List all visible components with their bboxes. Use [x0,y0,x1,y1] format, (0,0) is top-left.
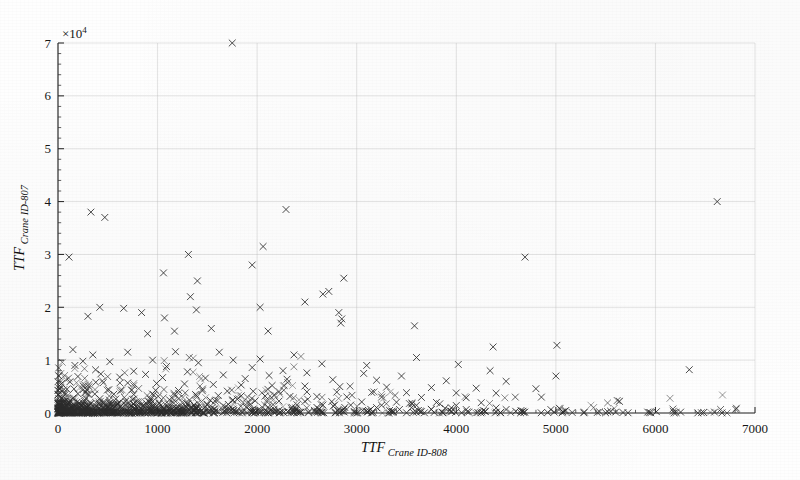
y-axis-exponent-label: ×104 [62,25,87,41]
x-axis-title: TTF Crane ID-808 [361,440,448,458]
plot-canvas: 0100020003000400050006000700001234567 ×1… [0,0,800,480]
y-tick-label: 6 [45,88,52,103]
grid-lines [58,43,755,413]
y-tick-label: 1 [45,353,52,368]
scatter-plot-figure: 0100020003000400050006000700001234567 ×1… [0,0,800,480]
x-tick-label: 3000 [344,421,370,436]
axis-ticks [58,43,755,413]
x-tick-label: 2000 [244,421,270,436]
axis-spines [58,43,755,413]
y-tick-label: 0 [45,406,52,421]
y-tick-label: 3 [45,247,52,262]
y-axis-title: TTF Crane ID-807 [12,184,30,271]
y-tick-label: 7 [45,36,52,51]
x-tick-label: 0 [55,421,62,436]
y-tick-label: 5 [45,141,52,156]
x-tick-label: 4000 [443,421,469,436]
y-tick-label: 2 [45,300,52,315]
x-tick-label: 7000 [742,421,768,436]
x-tick-label: 5000 [543,421,569,436]
y-tick-label: 4 [45,194,52,209]
x-tick-label: 6000 [642,421,668,436]
x-tick-label: 1000 [145,421,171,436]
